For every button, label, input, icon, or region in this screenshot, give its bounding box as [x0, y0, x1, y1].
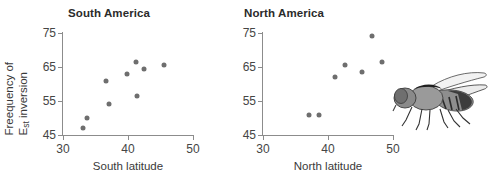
- scatter-point: [161, 63, 166, 68]
- plot-area-north-america: North latitude 45556575304050: [263, 33, 393, 135]
- y-axis-line: [62, 32, 63, 136]
- x-tick-label: 30: [256, 142, 269, 156]
- x-tick-mark: [193, 136, 194, 140]
- y-tick-label: 75: [43, 26, 56, 40]
- x-tick-label: 40: [321, 142, 334, 156]
- scatter-point: [85, 116, 90, 121]
- y-tick-mark: [58, 135, 62, 136]
- scatter-point: [135, 93, 140, 98]
- x-tick-mark: [128, 136, 129, 140]
- scatter-point: [124, 71, 129, 76]
- scatter-point: [133, 59, 138, 64]
- x-tick-mark: [263, 136, 264, 140]
- x-axis-title-south: South latitude: [93, 160, 163, 172]
- plot-area-south-america: South latitude 45556575304050: [63, 33, 193, 135]
- x-tick-mark: [63, 136, 64, 140]
- y-tick-mark: [258, 33, 262, 34]
- panel-title-north-america: North America: [244, 7, 324, 19]
- y-axis-line: [262, 32, 263, 136]
- scatter-point: [306, 112, 311, 117]
- scatter-point: [142, 66, 147, 71]
- x-tick-label: 40: [121, 142, 134, 156]
- scatter-point: [379, 59, 384, 64]
- y-tick-label: 65: [43, 60, 56, 74]
- y-tick-label: 65: [243, 60, 256, 74]
- scatter-point: [103, 78, 108, 83]
- y-tick-label: 45: [243, 128, 256, 142]
- y-tick-label: 45: [43, 128, 56, 142]
- scatter-point: [81, 126, 86, 131]
- y-tick-mark: [258, 135, 262, 136]
- scatter-figure: Freequency of Est inversion South Americ…: [0, 0, 490, 180]
- drosophila-fly-icon: [392, 58, 490, 140]
- y-tick-mark: [58, 67, 62, 68]
- scatter-point: [332, 75, 337, 80]
- x-tick-mark: [328, 136, 329, 140]
- x-axis-title-north: North latitude: [294, 160, 362, 172]
- scatter-point: [359, 70, 364, 75]
- x-tick-label: 30: [56, 142, 69, 156]
- panel-south-america: South America South latitude 45556575304…: [0, 0, 230, 180]
- y-tick-label: 75: [243, 26, 256, 40]
- x-tick-label: 50: [386, 142, 399, 156]
- y-tick-mark: [258, 67, 262, 68]
- y-tick-mark: [58, 33, 62, 34]
- x-tick-label: 50: [186, 142, 199, 156]
- scatter-point: [370, 34, 375, 39]
- y-tick-mark: [258, 101, 262, 102]
- y-tick-mark: [58, 101, 62, 102]
- scatter-point: [316, 112, 321, 117]
- scatter-point: [342, 63, 347, 68]
- scatter-point: [107, 102, 112, 107]
- y-tick-label: 55: [43, 94, 56, 108]
- y-tick-label: 55: [243, 94, 256, 108]
- panel-title-south-america: South America: [68, 7, 150, 19]
